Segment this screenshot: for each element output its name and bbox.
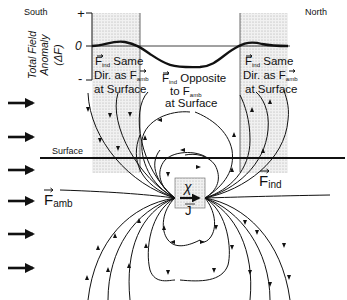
- tick-minus: -: [78, 71, 82, 86]
- tick-plus: +: [77, 6, 85, 21]
- j-vector: J: [185, 203, 192, 218]
- chi-symbol: χ: [182, 179, 192, 195]
- svg-text:Find: Find: [259, 172, 282, 190]
- svg-text:Total Field: Total Field: [26, 30, 38, 79]
- ambient-field-arrows: [8, 103, 33, 268]
- svg-text:at Surface: at Surface: [94, 83, 146, 95]
- north-label: North: [305, 7, 327, 17]
- right-region-text: Find Same Dir. as Famb at Surface: [243, 55, 298, 96]
- center-region-text: Find Opposite to Famb at Surface: [162, 72, 226, 110]
- surface-label: Surface: [52, 146, 83, 156]
- svg-text:Famb: Famb: [44, 191, 73, 209]
- tick-zero: 0: [75, 39, 82, 53]
- svg-text:(ΔF): (ΔF): [52, 44, 64, 66]
- magnetic-anomaly-diagram: + 0 - Total Field Anomaly (ΔF) South Nor…: [0, 0, 347, 300]
- svg-text:at Surface: at Surface: [165, 97, 217, 109]
- south-label: South: [24, 7, 48, 17]
- f-amb-label: Famb: [44, 188, 73, 209]
- y-axis-title: Total Field Anomaly (ΔF): [26, 30, 64, 79]
- svg-text:Anomaly: Anomaly: [38, 34, 50, 77]
- svg-text:Find Opposite: Find Opposite: [162, 72, 226, 85]
- svg-text:at Surface: at Surface: [245, 83, 297, 95]
